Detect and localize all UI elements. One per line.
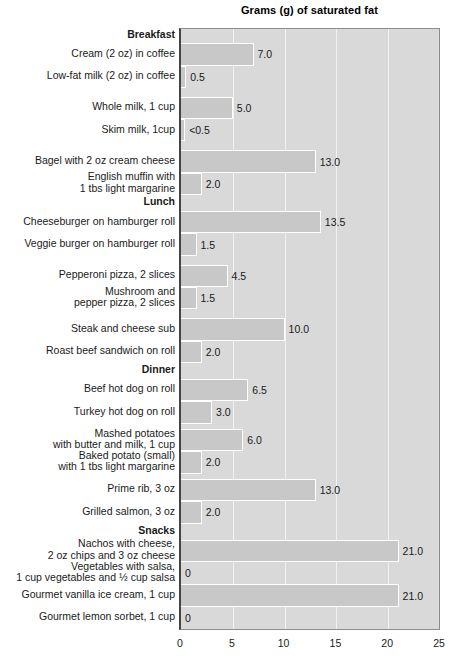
bar[interactable] <box>181 540 399 562</box>
food-item-label: Turkey hot dog on roll <box>0 400 175 422</box>
bar-row: 13.0 <box>181 150 439 172</box>
label-line: Cream (2 oz) in coffee <box>71 48 175 60</box>
category-label-column: BreakfastCream (2 oz) in coffeeLow-fat m… <box>0 28 175 630</box>
bar-row: 13.5 <box>181 211 439 233</box>
food-item-label: Bagel with 2 oz cream cheese <box>0 149 175 171</box>
bar[interactable] <box>181 584 399 606</box>
bar-value-label: 6.0 <box>247 435 262 446</box>
saturated-fat-bar-chart: Grams (g) of saturated fat BreakfastCrea… <box>0 0 455 670</box>
bar[interactable] <box>181 287 197 309</box>
label-line: Cheeseburger on hamburger roll <box>23 216 175 228</box>
x-axis: 0510152025 <box>179 631 440 661</box>
bar-value-label: 4.5 <box>232 271 247 282</box>
bar-value-label: 2.0 <box>206 347 221 358</box>
bar-row: 10.0 <box>181 318 439 340</box>
food-item-label: Prime rib, 3 oz <box>0 478 175 500</box>
bar[interactable] <box>181 119 185 141</box>
bar[interactable] <box>181 211 321 233</box>
bar-row: 1.5 <box>181 287 439 309</box>
bar-row: 0 <box>181 607 439 629</box>
bar-row: 0 <box>181 562 439 584</box>
bar[interactable] <box>181 318 285 340</box>
label-line: Skim milk, 1cup <box>101 124 175 136</box>
bar[interactable] <box>181 150 316 172</box>
food-item-label: Mashed potatoeswith butter and milk, 1 c… <box>0 428 175 450</box>
bar-row: 7.0 <box>181 43 439 65</box>
bar-value-label: 1.5 <box>201 239 216 250</box>
food-item-label: Roast beef sandwich on roll <box>0 340 175 362</box>
bar[interactable] <box>181 173 202 195</box>
food-item-label: Veggie burger on hamburger roll <box>0 232 175 254</box>
plot-area: 7.00.55.0<0.513.02.013.51.54.51.510.02.0… <box>179 28 440 630</box>
bar-value-label: 1.5 <box>201 293 216 304</box>
label-line: Veggie burger on hamburger roll <box>24 238 175 250</box>
bar[interactable] <box>181 401 212 423</box>
bar-value-label: 7.0 <box>258 49 273 60</box>
bar-value-label: 2.0 <box>206 507 221 518</box>
food-item-label: Whole milk, 1 cup <box>0 96 175 118</box>
bar[interactable] <box>181 479 316 501</box>
food-item-label: Grilled salmon, 3 oz <box>0 500 175 522</box>
food-item-label: Baked potato (small)with 1 tbs light mar… <box>0 450 175 472</box>
food-item-label: Nachos with cheese,2 oz chips and 3 oz c… <box>0 539 175 561</box>
bar-row: 2.0 <box>181 451 439 473</box>
food-item-label: Gourmet lemon sorbet, 1 cup <box>0 606 175 628</box>
bar-row: 6.0 <box>181 429 439 451</box>
bar[interactable] <box>181 451 202 473</box>
label-line: pepper pizza, 2 slices <box>74 297 175 309</box>
label-line: Snacks <box>138 525 175 537</box>
food-item-label: Steak and cheese sub <box>0 317 175 339</box>
x-tick-label: 10 <box>278 637 290 649</box>
label-line: Bagel with 2 oz cream cheese <box>35 155 175 167</box>
label-line: Turkey hot dog on roll <box>74 406 175 418</box>
chart-title: Grams (g) of saturated fat <box>179 4 440 16</box>
meal-group-header: Lunch <box>0 194 175 210</box>
label-line: Grilled salmon, 3 oz <box>82 506 175 518</box>
label-line: Pepperoni pizza, 2 slices <box>59 269 175 281</box>
x-tick-label: 15 <box>330 637 342 649</box>
food-item-label: Skim milk, 1cup <box>0 118 175 140</box>
bar[interactable] <box>181 379 248 401</box>
bar-row: 2.0 <box>181 341 439 363</box>
bar-value-label: 0 <box>185 613 191 624</box>
label-line: with 1 tbs light margarine <box>58 461 175 473</box>
bar-row: 21.0 <box>181 584 439 606</box>
bar[interactable] <box>181 501 202 523</box>
food-item-label: Mushroom andpepper pizza, 2 slices <box>0 286 175 308</box>
bar-row: 3.0 <box>181 401 439 423</box>
bar[interactable] <box>181 265 228 287</box>
meal-group-header: Dinner <box>0 362 175 378</box>
bar[interactable] <box>181 341 202 363</box>
bar-row: <0.5 <box>181 119 439 141</box>
bar[interactable] <box>181 429 243 451</box>
bar-row: 21.0 <box>181 540 439 562</box>
bar-value-label: <0.5 <box>189 125 210 136</box>
bar-value-label: 0 <box>185 568 191 579</box>
food-item-label: Pepperoni pizza, 2 slices <box>0 264 175 286</box>
bar-row: 1.5 <box>181 233 439 255</box>
bar-value-label: 6.5 <box>252 385 267 396</box>
bar[interactable] <box>181 97 233 119</box>
bar-row: 4.5 <box>181 265 439 287</box>
bar-row: 5.0 <box>181 97 439 119</box>
bar-row: 13.0 <box>181 479 439 501</box>
bar-value-label: 2.0 <box>206 457 221 468</box>
x-tick-label: 25 <box>433 637 445 649</box>
bar-value-label: 3.0 <box>216 407 231 418</box>
label-line: 1 tbs light margarine <box>80 183 175 195</box>
food-item-label: English muffin with1 tbs light margarine <box>0 172 175 194</box>
label-line: Breakfast <box>127 29 175 41</box>
label-line: Gourmet vanilla ice cream, 1 cup <box>22 589 175 601</box>
food-item-label: Beef hot dog on roll <box>0 378 175 400</box>
bar[interactable] <box>181 43 254 65</box>
food-item-label: Low-fat milk (2 oz) in coffee <box>0 65 175 87</box>
meal-group-header: Breakfast <box>0 28 175 42</box>
bar-value-label: 13.5 <box>325 217 345 228</box>
label-line: 1 cup vegetables and ½ cup salsa <box>16 572 175 584</box>
bar[interactable] <box>181 233 197 255</box>
bar-value-label: 13.0 <box>320 156 340 167</box>
x-tick-label: 5 <box>229 637 235 649</box>
bar[interactable] <box>181 66 186 88</box>
label-line: Low-fat milk (2 oz) in coffee <box>47 70 175 82</box>
bar-value-label: 2.0 <box>206 179 221 190</box>
